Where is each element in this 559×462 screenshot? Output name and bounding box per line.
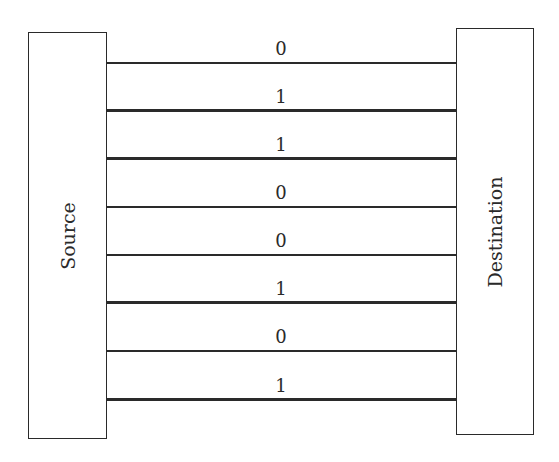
wire-line (106, 62, 457, 64)
bit-label: 1 (266, 377, 296, 395)
bit-label: 0 (266, 232, 296, 250)
bit-label: 0 (266, 184, 296, 202)
destination-box: Destination (456, 28, 534, 435)
wire-line (106, 157, 457, 160)
bit-label: 1 (266, 280, 296, 298)
bit-label: 1 (266, 136, 296, 154)
bit-label: 1 (266, 88, 296, 106)
wire-line (106, 398, 457, 401)
destination-label: Destination (484, 176, 506, 287)
bit-label: 0 (266, 328, 296, 346)
source-box: Source (28, 32, 107, 439)
wire-line (106, 109, 457, 112)
wire-line (106, 301, 457, 304)
bit-label: 0 (266, 40, 296, 58)
wire-line (106, 350, 457, 352)
diagram-canvas: Source Destination 0 1 1 0 0 1 0 1 (0, 0, 559, 462)
wire-line (106, 254, 457, 256)
wire-line (106, 206, 457, 208)
source-label: Source (57, 202, 79, 270)
